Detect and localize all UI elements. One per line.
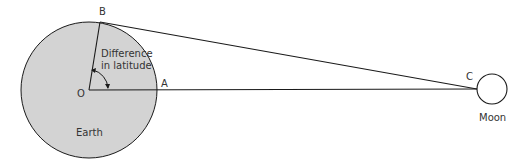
label-a: A bbox=[161, 78, 168, 89]
parallax-diagram: B A C O Earth Moon Difference in latitud… bbox=[0, 0, 527, 166]
label-moon: Moon bbox=[479, 112, 506, 123]
label-earth: Earth bbox=[76, 127, 103, 138]
label-in-latitude: in latitude bbox=[101, 60, 152, 71]
label-difference: Difference bbox=[101, 48, 153, 59]
label-b: B bbox=[99, 6, 106, 17]
label-c: C bbox=[466, 71, 473, 82]
moon-circle bbox=[477, 74, 507, 104]
label-o: O bbox=[77, 88, 85, 99]
